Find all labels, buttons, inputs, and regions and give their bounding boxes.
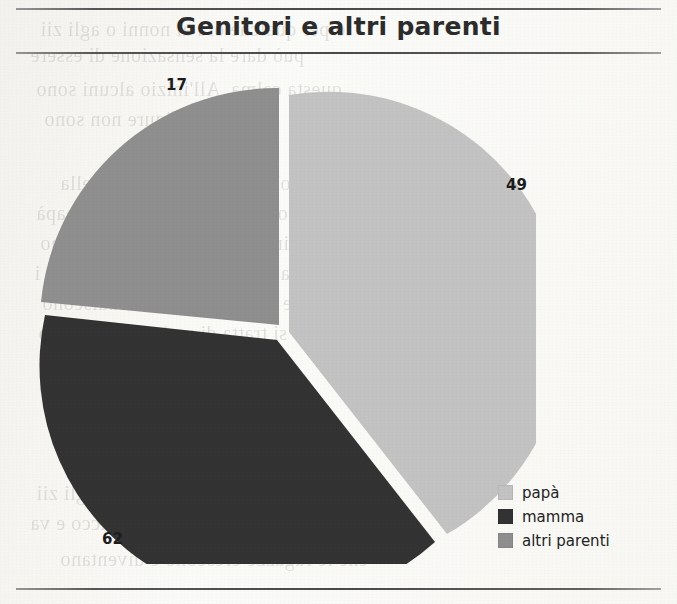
pie-chart [36, 86, 536, 564]
legend-item-papa: papà [498, 484, 610, 501]
legend-swatch-icon [498, 509, 513, 524]
bottom-rule [16, 588, 661, 590]
legend-label: mamma [522, 508, 584, 526]
legend-swatch-icon [498, 485, 513, 500]
chart-title: Genitori e altri parenti [0, 12, 677, 41]
title-underline-rule [16, 52, 661, 54]
chart-legend: papà mamma altri parenti [498, 484, 610, 549]
ghost-line: può dare la sensazione di essere [30, 44, 304, 67]
legend-item-altri-parenti: altri parenti [498, 532, 610, 549]
data-label-altri-parenti: 17 [166, 76, 187, 94]
data-label-mamma: 62 [102, 530, 123, 548]
data-label-papa: 49 [506, 176, 527, 194]
scanned-page: lo per qualche ora ai nonni o agli zii p… [0, 0, 677, 604]
pie-slice-altri-parenti [41, 88, 279, 325]
legend-label: papà [522, 484, 559, 502]
legend-item-mamma: mamma [498, 508, 610, 525]
legend-label: altri parenti [522, 532, 610, 550]
pie-chart-svg [36, 86, 536, 564]
top-rule [16, 8, 661, 10]
legend-swatch-icon [498, 533, 513, 548]
